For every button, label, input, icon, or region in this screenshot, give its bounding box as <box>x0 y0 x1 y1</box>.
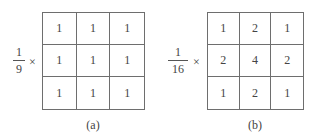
kernel-cell: 1 <box>110 45 144 77</box>
kernel-grid-b: 1 2 1 2 4 2 1 2 1 <box>207 12 304 110</box>
fraction-numerator: 1 <box>175 46 181 60</box>
kernel-cell: 1 <box>208 77 240 109</box>
kernel-cell: 4 <box>240 45 272 77</box>
kernel-cell: 1 <box>77 77 111 109</box>
fraction-denominator: 16 <box>172 61 184 75</box>
kernel-cell: 1 <box>77 45 111 77</box>
kernel-cell: 2 <box>240 13 272 45</box>
kernel-cell: 1 <box>110 77 144 109</box>
kernel-cell: 1 <box>271 13 303 45</box>
kernel-cell: 1 <box>208 13 240 45</box>
kernel-cell: 2 <box>240 77 272 109</box>
kernel-cell: 2 <box>208 45 240 77</box>
scale-fraction-a: 1 9 <box>13 46 25 75</box>
multiply-sign: × <box>193 56 200 68</box>
scale-fraction-b: 1 16 <box>168 46 188 75</box>
kernel-grid-a: 1 1 1 1 1 1 1 1 1 <box>42 12 145 110</box>
kernel-cell: 1 <box>271 77 303 109</box>
kernel-cell: 1 <box>43 45 77 77</box>
kernel-cell: 1 <box>110 13 144 45</box>
kernel-cell: 2 <box>271 45 303 77</box>
caption-a: (a) <box>86 119 99 131</box>
kernel-cell: 1 <box>43 13 77 45</box>
kernel-cell: 1 <box>43 77 77 109</box>
caption-b: (b) <box>248 119 262 131</box>
kernel-cell: 1 <box>77 13 111 45</box>
fraction-denominator: 9 <box>16 61 22 75</box>
multiply-sign: × <box>29 56 36 68</box>
fraction-numerator: 1 <box>16 46 22 60</box>
